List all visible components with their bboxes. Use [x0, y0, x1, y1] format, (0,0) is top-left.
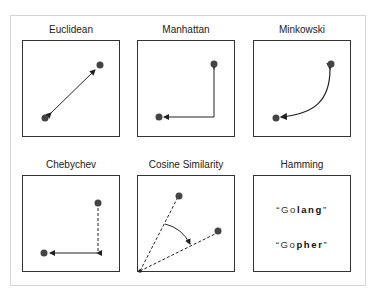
- quote-close: ”: [323, 204, 328, 215]
- point-b: [156, 114, 163, 121]
- panel-euclidean: [22, 40, 120, 137]
- vector-b: [140, 233, 217, 271]
- diff-chars: lang: [297, 204, 323, 215]
- panel-title-cosine: Cosine Similarity: [137, 159, 235, 171]
- panel-hamming: “Golang” “Gopher”: [253, 175, 351, 272]
- angle-arc: [165, 224, 190, 244]
- point-a: [176, 193, 183, 200]
- point-a: [95, 200, 102, 207]
- same-chars: Go: [281, 239, 297, 250]
- point-b: [42, 115, 49, 122]
- quote-close: ”: [323, 239, 328, 250]
- manhattan-diagram: [138, 41, 236, 138]
- diff-chars: pher: [296, 239, 323, 250]
- panel-title-hamming: Hamming: [253, 159, 351, 171]
- point-a: [211, 61, 218, 68]
- panel-chebychev: [22, 175, 120, 272]
- panel-title-manhattan: Manhattan: [137, 24, 235, 36]
- euclidean-diagram: [23, 41, 121, 138]
- panel-minkowski: [253, 40, 351, 137]
- point-a: [328, 61, 335, 68]
- minkowski-diagram: [254, 41, 352, 138]
- origin-point: [138, 269, 142, 273]
- hamming-word-golang: “Golang”: [254, 204, 350, 215]
- point-b: [41, 250, 48, 257]
- point-b: [273, 115, 280, 122]
- panel-manhattan: [137, 40, 235, 137]
- manhattan-path: [164, 69, 214, 117]
- same-chars: Go: [281, 204, 297, 215]
- cosine-diagram: [138, 176, 236, 273]
- hamming-word-gopher: “Gopher”: [254, 239, 350, 250]
- point-a: [97, 62, 104, 69]
- point-b: [215, 228, 222, 235]
- panel-title-chebychev: Chebychev: [22, 159, 120, 171]
- panel-title-euclidean: Euclidean: [22, 24, 120, 36]
- vector-a: [140, 197, 178, 271]
- panel-cosine: [137, 175, 235, 272]
- chebychev-diagram: [23, 176, 121, 273]
- minkowski-curve: [281, 69, 330, 117]
- euclidean-line: [51, 70, 95, 113]
- panel-title-minkowski: Minkowski: [253, 24, 351, 36]
